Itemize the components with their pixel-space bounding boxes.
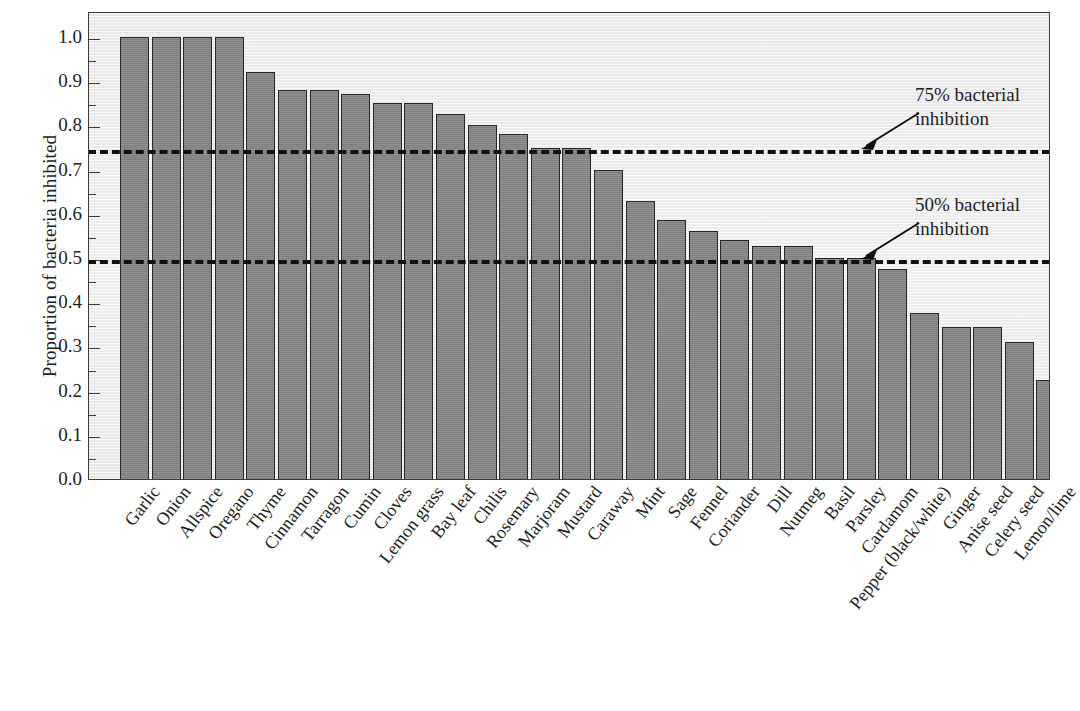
bar [942,327,971,479]
annotation-arrow-icon [857,216,927,264]
bar [310,90,339,479]
bar [278,90,307,479]
y-tick-major [89,304,100,305]
y-tick-minor [89,282,96,283]
bar [689,231,718,479]
y-tick-major [89,83,100,84]
bar [973,327,1002,479]
bar [752,246,781,479]
y-tick-minor [89,105,96,106]
y-tick-minor [89,326,96,327]
bar [215,37,244,479]
bar [404,103,433,479]
bar [436,114,465,479]
y-tick-minor [89,415,96,416]
y-tick-label: 1.0 [26,26,82,48]
y-tick-major [89,39,100,40]
bar [594,170,623,479]
y-tick-label: 0.6 [26,203,82,225]
bar [626,201,655,479]
y-tick-label: 0.5 [26,247,82,269]
y-tick-label: 0.0 [26,468,82,490]
y-tick-major [89,348,100,349]
bar [152,37,181,479]
y-tick-minor [89,194,96,195]
y-tick-major [89,393,100,394]
annotation-line-2: inhibition [915,107,1020,131]
reference-line-annotation: 50% bacterialinhibition [915,193,1020,241]
bar [499,134,528,479]
bar [562,148,591,480]
bar [531,148,560,480]
bar [910,313,939,479]
y-tick-label: 0.9 [26,70,82,92]
bar [815,258,844,479]
y-tick-minor [89,238,96,239]
y-tick-minor [89,61,96,62]
y-tick-label: 0.4 [26,291,82,313]
bar [183,37,212,479]
bar [468,125,497,479]
y-tick-label: 0.3 [26,335,82,357]
y-tick-major [89,216,100,217]
annotation-line-1: 75% bacterial [915,83,1020,107]
x-tick-label: Garlic [120,482,164,530]
x-axis-tick-labels: GarlicOnionAllspiceOreganoThymeCinnamonT… [88,482,1050,707]
bar [373,103,402,479]
bar [720,240,749,479]
y-tick-label: 0.2 [26,380,82,402]
bar [878,269,907,479]
y-tick-major [89,127,100,128]
bar [784,246,813,479]
y-tick-label: 0.7 [26,159,82,181]
plot-area: 75% bacterialinhibition50% bacterialinhi… [88,12,1050,480]
y-tick-major [89,172,100,173]
annotation-line-1: 50% bacterial [915,193,1020,217]
reference-line-annotation: 75% bacterialinhibition [915,83,1020,131]
y-tick-label: 0.8 [26,114,82,136]
y-tick-major [89,437,100,438]
y-axis-tick-labels: 1.00.90.80.70.60.50.40.30.20.10.0 [22,0,82,492]
bar [847,258,876,479]
bar [246,72,275,479]
bar [1005,342,1034,479]
y-tick-minor [89,459,96,460]
annotation-line-2: inhibition [915,217,1020,241]
y-tick-label: 0.1 [26,424,82,446]
x-tick-label: Mint [632,482,670,523]
bar [1036,380,1050,479]
bar [120,37,149,479]
y-tick-minor [89,371,96,372]
annotation-arrow-icon [857,106,927,154]
